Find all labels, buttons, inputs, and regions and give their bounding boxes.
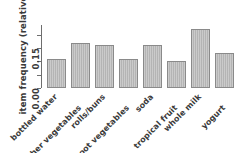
item-frequency-bar-chart: item frequency (relative) 0.000.15 bottl… <box>0 0 239 153</box>
y-axis-tick <box>37 75 41 76</box>
bar[interactable] <box>71 43 90 88</box>
bar[interactable] <box>119 59 138 88</box>
bar-slot <box>95 25 114 88</box>
bar-slot <box>143 25 162 88</box>
y-axis-tick <box>37 35 41 36</box>
bar-slot <box>119 25 138 88</box>
bar[interactable] <box>167 61 186 88</box>
bar-slot <box>191 25 210 88</box>
bar[interactable] <box>95 45 114 88</box>
bar[interactable] <box>143 45 162 88</box>
bar-slot <box>47 25 66 88</box>
bar[interactable] <box>215 53 234 88</box>
y-axis-title: item frequency (relative) <box>18 0 28 117</box>
bar[interactable] <box>191 29 210 88</box>
plot-area <box>44 25 236 88</box>
bar[interactable] <box>47 59 66 88</box>
bar-slot <box>167 25 186 88</box>
bar-slot <box>71 25 90 88</box>
y-axis-tick-label: 0.15 <box>31 48 41 69</box>
bar-slot <box>215 25 234 88</box>
